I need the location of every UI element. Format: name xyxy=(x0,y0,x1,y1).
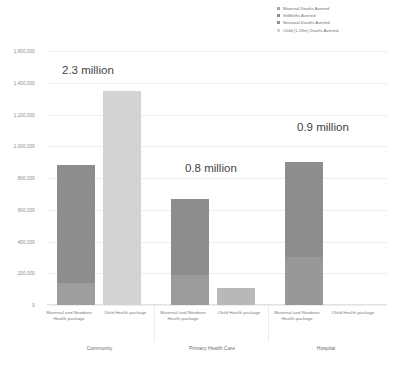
legend-swatch-icon xyxy=(277,21,280,24)
category-label-phc-child: Child Health package xyxy=(213,310,265,316)
annotation-community-total: 2.3 million xyxy=(62,64,114,76)
legend-item-neonatal-deaths-averted: Neonatal Deaths Averted xyxy=(277,20,392,25)
chart-legend: Maternal Deaths Averted Stillbirths Aver… xyxy=(277,6,392,35)
y-axis-tick-label: 0 xyxy=(0,303,35,308)
bar-segment xyxy=(217,288,255,305)
group-label-community: Community xyxy=(47,346,152,352)
legend-swatch-icon xyxy=(277,29,280,32)
category-label-phc-mnh: Maternal and Newborn Health package xyxy=(157,310,209,322)
annotation-phc-total: 0.8 million xyxy=(185,162,237,174)
bar-segment xyxy=(171,199,209,274)
bar-hospital-maternal-and-newborn-health-package xyxy=(285,162,323,305)
legend-item-stillbirths-averted: Stillbirths Averted xyxy=(277,13,392,18)
gridline xyxy=(47,178,387,179)
chart-container: Maternal Deaths Averted Stillbirths Aver… xyxy=(0,0,394,368)
legend-item-child-deaths-averted: Child (1-59m) Deaths Averted xyxy=(277,28,392,33)
legend-label: Child (1-59m) Deaths Averted xyxy=(283,28,338,33)
bar-primary-health-care-maternal-and-newborn-health-package xyxy=(171,199,209,305)
y-axis-tick-label: 600,000 xyxy=(0,207,35,212)
y-axis-tick-label: 1,400,000 xyxy=(0,80,35,85)
annotation-hospital-total: 0.9 million xyxy=(297,121,349,133)
legend-item-maternal-deaths-averted: Maternal Deaths Averted xyxy=(277,6,392,11)
gridline xyxy=(47,51,387,52)
y-axis-tick-label: 400,000 xyxy=(0,239,35,244)
category-label-community-mnh: Maternal and Newborn Health package xyxy=(43,310,95,322)
category-label-community-child: Child Health package xyxy=(99,310,151,316)
gridline xyxy=(47,83,387,84)
group-label-primary-health-care: Primary Health Care xyxy=(158,346,266,352)
legend-swatch-icon xyxy=(277,7,280,10)
bar-segment xyxy=(57,165,95,282)
y-axis-tick-label: 800,000 xyxy=(0,176,35,181)
legend-label: Maternal Deaths Averted xyxy=(283,6,329,11)
y-axis-tick-label: 1,600,000 xyxy=(0,49,35,54)
bar-community-child-health-package xyxy=(103,91,141,305)
y-axis-tick-label: 1,200,000 xyxy=(0,112,35,117)
y-axis-tick-label: 200,000 xyxy=(0,271,35,276)
bar-community-maternal-and-newborn-health-package xyxy=(57,165,95,305)
bar-segment xyxy=(285,162,323,257)
legend-swatch-icon xyxy=(277,14,280,17)
gridline xyxy=(47,210,387,211)
category-label-hospital-child: Child Health package xyxy=(327,310,379,316)
gridline xyxy=(47,146,387,147)
y-axis-tick-label: 1,000,000 xyxy=(0,144,35,149)
plot-area: 1,600,0001,400,0001,200,0001,000,000800,… xyxy=(47,51,387,305)
gridline xyxy=(47,115,387,116)
legend-label: Neonatal Deaths Averted xyxy=(283,20,330,25)
group-separator xyxy=(154,306,155,342)
legend-label: Stillbirths Averted xyxy=(283,13,316,18)
bar-segment xyxy=(103,91,141,305)
bar-segment xyxy=(171,275,209,305)
group-label-hospital: Hospital xyxy=(272,346,380,352)
bar-segment xyxy=(285,257,323,305)
category-label-hospital-mnh: Maternal and Newborn Health package xyxy=(271,310,323,322)
gridline xyxy=(47,242,387,243)
group-separator xyxy=(268,306,269,342)
bar-primary-health-care-child-health-package xyxy=(217,288,255,305)
bar-segment xyxy=(57,283,95,305)
gridline xyxy=(47,273,387,274)
gridline xyxy=(47,305,387,306)
